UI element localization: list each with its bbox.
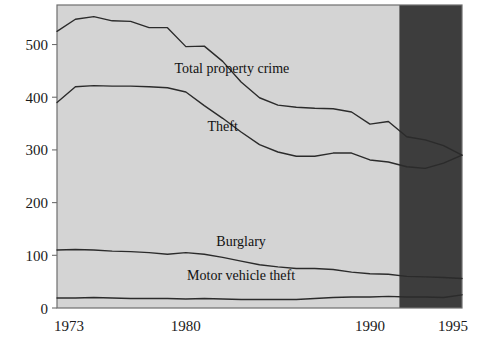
line-chart: 0100200300400500 1973198019901995 Total … [0, 0, 484, 341]
x-tick-label: 1973 [54, 318, 84, 334]
y-tick-label: 200 [26, 195, 49, 211]
series-label-total-property-crime: Total property crime [174, 61, 289, 76]
series-label-theft: Theft [208, 119, 238, 134]
shaded-projection-band [399, 5, 462, 308]
y-tick-label: 400 [26, 90, 49, 106]
y-tick-label: 300 [26, 142, 49, 158]
series-label-burglary: Burglary [216, 234, 266, 249]
x-tick-label: 1995 [438, 318, 468, 334]
x-tick-label: 1990 [355, 318, 385, 334]
chart-container: 0100200300400500 1973198019901995 Total … [0, 0, 484, 341]
y-tick-label: 0 [41, 301, 49, 317]
x-tick-label: 1980 [171, 318, 201, 334]
series-label-motor-vehicle-theft: Motor vehicle theft [187, 268, 295, 283]
y-tick-label: 500 [26, 37, 49, 53]
y-tick-label: 100 [26, 248, 49, 264]
